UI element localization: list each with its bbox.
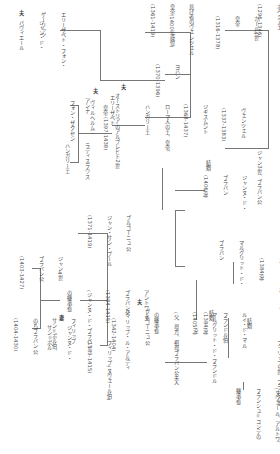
node-marguerite-brabant: マルグリット・ド・ ブラバン (212, 240, 257, 286)
node-karl4: カール4世 皇帝 (1316-1378) (208, 16, 272, 49)
line-jeanne-branch (175, 210, 185, 211)
node-ladislaus: ラディスラウス ハンガリー王 (58, 143, 103, 179)
line-johann-elisabeth (100, 30, 101, 80)
node-albrecht: 夫 (114, 84, 140, 89)
node-louis-male: ルイ・ド・フランドル ユー・ド・ヌヴェール (1384没) (252, 258, 280, 309)
node-wilhelm: ヴィルヘルム・ フォン・ザクセン (63, 100, 108, 141)
node-sigismund: ジギスムント (1368-1437) ローマ人の王、皇帝、 ハンガリー王 (138, 104, 221, 155)
line-johann-wenzel (225, 148, 269, 149)
node-elisabeth-gorlitz-spouse: 夫 (12, 10, 38, 15)
line-antoine-branch (40, 300, 60, 301)
node-anna-spouse-mark: 夫 (86, 88, 112, 93)
line-marriage-1 (162, 168, 163, 210)
node-jean4: ジャン4世 ブラバン公 (1403-1427) (12, 256, 76, 289)
node-johann-gorlitz: ヨハン (1370-1396) (148, 64, 193, 97)
node-jean-sans-peur: ブルゴーニュ公 ジャン・サン・プール (1371-1419) (80, 215, 144, 266)
node-wenzel-lazy: 怠け者のヴェンツェル 皇帝(1400年廃位) (1361-1419) (143, 4, 207, 55)
node-jeanne: ジャンヌ・ド・ ブラバン (1406没) (196, 175, 260, 211)
line-marguerite-branch (175, 266, 185, 267)
line-jeanne-marguerite (175, 210, 176, 266)
node-jean-baviere: ジャン・ド・ バヴィエール (12, 20, 57, 51)
marriage-label-1: 結婚 (205, 160, 212, 170)
node-philippe-stpol: フィリップ サン＝ポル伯、 のちブラバン公 (1404-1430) (6, 318, 89, 354)
node-marguerite-artois: マルグリット (ヌヴェール、アルトワ、 フランシュ＝コンテの 継承者) (229, 388, 280, 446)
